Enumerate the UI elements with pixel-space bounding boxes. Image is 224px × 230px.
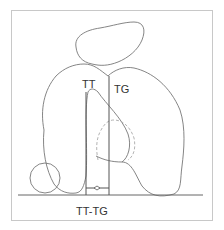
patella-outline bbox=[76, 22, 144, 65]
knee-diagram bbox=[0, 0, 224, 230]
measure-marker bbox=[94, 186, 100, 190]
tt-label: TT bbox=[82, 79, 95, 90]
small-circle bbox=[30, 163, 60, 193]
tg-label: TG bbox=[114, 84, 129, 95]
tt-tg-label: TT-TG bbox=[76, 206, 108, 217]
